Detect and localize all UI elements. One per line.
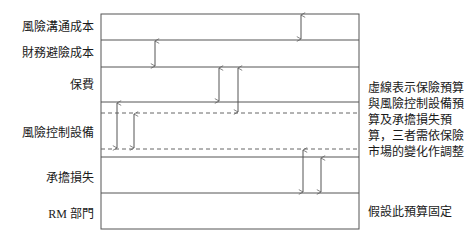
row-label-premium: 保費: [70, 78, 94, 92]
row-label-risk-communication: 風險溝通成本: [22, 20, 94, 34]
note-variable-budget: 虛線表示保險預算與風險控制設備預算及承擔損失預算，三者需依保險市場的變化作調整: [368, 80, 464, 160]
row-label-rm-department: RM 部門: [48, 207, 94, 221]
budget-box: [101, 14, 359, 229]
note-fixed-budget: 假設此預算固定: [368, 204, 464, 220]
row-label-retained-loss: 承擔損失: [46, 171, 94, 185]
row-label-financial-hedging: 財務避險成本: [22, 46, 94, 60]
row-label-risk-control-equipment: 風險控制設備: [22, 126, 94, 140]
